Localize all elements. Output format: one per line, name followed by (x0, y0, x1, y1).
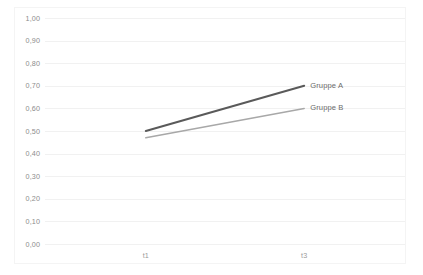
series-lines (45, 18, 405, 244)
series-line-a (146, 86, 304, 131)
gridline (45, 244, 405, 245)
y-tick-label: 0,40 (0, 149, 40, 158)
y-tick-label: 0,30 (0, 172, 40, 181)
series-label-a: Gruppe A (310, 81, 343, 90)
series-line-b (146, 108, 304, 137)
plot-area (45, 18, 405, 244)
y-tick-label: 0,80 (0, 59, 40, 68)
y-tick-label: 0,90 (0, 36, 40, 45)
y-tick-label: 0,00 (0, 240, 40, 249)
y-tick-label: 0,60 (0, 104, 40, 113)
y-tick-label: 1,00 (0, 14, 40, 23)
line-chart: 1,000,900,800,700,600,500,400,300,200,10… (0, 0, 423, 275)
x-tick-label: t1 (126, 251, 166, 260)
y-tick-label: 0,10 (0, 217, 40, 226)
y-tick-label: 0,20 (0, 194, 40, 203)
y-tick-label: 0,70 (0, 81, 40, 90)
series-label-b: Gruppe B (310, 103, 343, 112)
x-tick-label: t3 (284, 251, 324, 260)
y-tick-label: 0,50 (0, 127, 40, 136)
